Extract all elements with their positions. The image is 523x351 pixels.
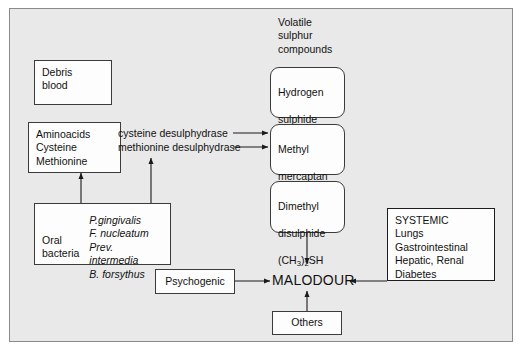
enzyme-cysteine-desulphydrase: cysteine desulphydrase (118, 126, 228, 141)
node-dimethyl-disulphide[interactable]: Dimethyl disulphide (CH3)2SH (270, 181, 345, 233)
node-systemic[interactable]: SYSTEMIC Lungs Gastrointestinal Hepatic,… (387, 208, 495, 281)
node-aminoacids[interactable]: Aminoacids Cysteine Methionine (28, 122, 121, 173)
node-psychogenic[interactable]: Psychogenic (155, 269, 235, 294)
node-hydrogen-sulphide[interactable]: Hydrogen sulphide H2S (270, 67, 345, 118)
oral-bacteria-species: P.gingivalis F. nucleatum Prev. intermed… (89, 214, 163, 281)
arrow-layer (0, 0, 523, 351)
oral-bacteria-label: Oral bacteria (42, 234, 79, 261)
methyl-mercaptan-line1: Methyl (278, 143, 309, 155)
dimethyl-disulphide-line2: disulphide (278, 227, 325, 239)
enzyme-methionine-desulphydrase: methionine desulphydrase (118, 140, 241, 155)
diagram-page: Volatile sulphur compounds Debris blood … (0, 0, 523, 351)
node-malodour[interactable]: MALODOUR (272, 272, 355, 288)
node-oral-bacteria[interactable]: Oral bacteria P.gingivalis F. nucleatum … (34, 203, 171, 265)
node-debris-blood[interactable]: Debris blood (34, 60, 112, 105)
hydrogen-sulphide-line1: Hydrogen (278, 86, 324, 98)
volatile-sulphur-compounds-label: Volatile sulphur compounds (278, 16, 332, 56)
node-others[interactable]: Others (272, 311, 342, 335)
dimethyl-disulphide-line1: Dimethyl (278, 200, 319, 212)
node-methyl-mercaptan[interactable]: Methyl mercaptan CH3SH (270, 124, 345, 175)
dimethyl-disulphide-formula: (CH3)2SH (278, 254, 323, 266)
